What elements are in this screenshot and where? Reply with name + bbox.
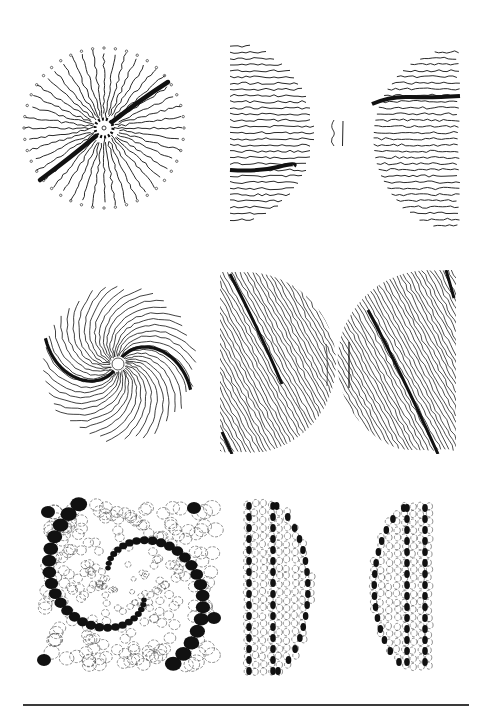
- panel-spiral-stripe-disc: [36, 272, 200, 452]
- panel-spiral-spot-square: [38, 500, 220, 670]
- bottom-rule: [23, 704, 469, 706]
- panel-horizontal-stripes-left-half: [228, 42, 320, 224]
- horizontal-stripes-drawing-right: [360, 48, 462, 230]
- spot-rows-drawing-right: [345, 502, 437, 672]
- figure: [0, 0, 486, 713]
- panel-horizontal-stripes-right-half: [360, 48, 462, 230]
- oblique-stripes-drawing-left: [220, 272, 320, 454]
- spiral-spots-drawing: [38, 500, 220, 670]
- spot-rows-drawing-left: [243, 500, 339, 678]
- panel-center-marks-top: [328, 118, 350, 148]
- horizontal-stripes-drawing-left: [228, 42, 320, 224]
- oblique-stripes-drawing-right: [350, 270, 456, 454]
- panel-radial-stripe-disc: [20, 40, 188, 218]
- panel-oblique-stripes-right-half: [350, 270, 456, 454]
- panel-spot-rows-left-half: [243, 500, 339, 678]
- spiral-stripes-drawing: [36, 272, 200, 452]
- panel-spot-rows-right-half: [345, 502, 437, 672]
- center-marks-drawing: [328, 118, 350, 148]
- radial-stripes-drawing: [20, 40, 188, 218]
- panel-oblique-stripes-left-half: [220, 272, 320, 454]
